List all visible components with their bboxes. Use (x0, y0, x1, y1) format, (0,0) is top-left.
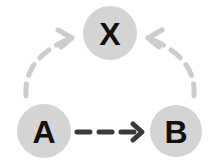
edge-a-to-b (77, 124, 142, 140)
node-b: B (150, 105, 202, 157)
node-a: A (17, 104, 71, 158)
node-b-label: B (164, 114, 187, 150)
node-x-label: X (99, 16, 121, 52)
causal-diagram: X A B (0, 0, 211, 165)
edge-a-to-x (26, 30, 72, 96)
node-x: X (83, 6, 137, 60)
node-a-label: A (32, 114, 55, 150)
edge-b-to-x (148, 30, 194, 96)
